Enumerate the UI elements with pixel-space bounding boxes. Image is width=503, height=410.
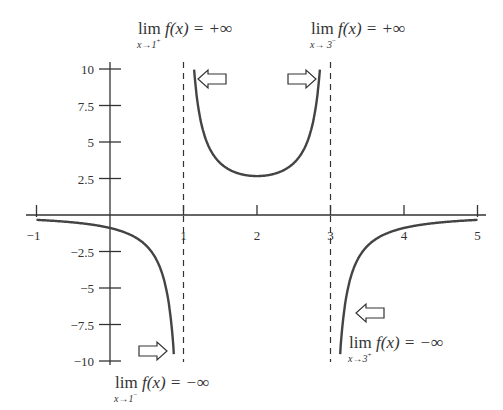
x-tick-label: 3 (327, 228, 334, 243)
lim-expression: f(x) = −∞ (142, 373, 209, 392)
annotation-lim3plus: limf(x) = −∞x→3+ (347, 333, 443, 364)
y-tick-label: −10 (74, 354, 94, 369)
lim-subscript: x→3+ (347, 351, 371, 364)
annotation-lim3minus: limf(x) = +∞x→ 3− (309, 19, 405, 50)
lim-text: lim (349, 333, 372, 352)
y-tick-label: −5 (80, 281, 94, 296)
y-tick-label: −7.5 (70, 318, 94, 333)
x-tick-label: 1 (180, 228, 187, 243)
lim-expression: f(x) = −∞ (376, 333, 443, 352)
arrow-right-icon (288, 70, 316, 88)
y-tick-label: −2.5 (70, 245, 94, 260)
lim-subscript: x→1+ (136, 37, 160, 50)
lim-text: lim (311, 19, 334, 38)
annotation-lim1plus: limf(x) = +∞x→1+ (136, 19, 232, 50)
y-tick-label: 5 (88, 135, 95, 150)
limit-chart: −112345107.552.5−2.5−5−7.5−10 limf(x) = … (0, 0, 503, 410)
annotation-lim1minus: limf(x) = −∞x→1− (113, 373, 209, 404)
x-tick-label: 5 (474, 228, 481, 243)
curve-left-branch (37, 220, 174, 354)
lim-text: lim (138, 19, 161, 38)
y-tick-label: 2.5 (78, 172, 94, 187)
y-tick-label: 10 (81, 62, 94, 77)
arrow-left-icon (356, 304, 384, 322)
y-tick-label: 7.5 (78, 99, 94, 114)
lim-expression: f(x) = +∞ (165, 19, 232, 38)
arrow-right-icon (139, 342, 167, 360)
lim-subscript: x→ 3− (309, 37, 336, 50)
x-tick-label: −1 (27, 228, 41, 243)
arrow-left-icon (198, 70, 226, 88)
lim-expression: f(x) = +∞ (338, 19, 405, 38)
lim-text: lim (115, 373, 138, 392)
x-tick-label: 2 (254, 228, 261, 243)
lim-subscript: x→1− (113, 391, 137, 404)
curve-middle-branch (194, 70, 320, 177)
axes (26, 62, 486, 365)
x-tick-label: 4 (401, 228, 408, 243)
